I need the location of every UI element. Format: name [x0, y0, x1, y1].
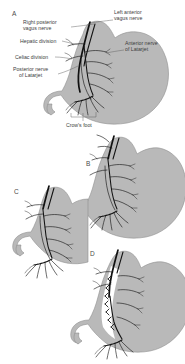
label-left-anterior-vagus-line2: vagus nerve	[114, 15, 142, 21]
hepatic-division-branch-b	[90, 154, 97, 159]
label-crows-foot: Crow's foot	[66, 122, 92, 128]
vagotomy-figure: A	[0, 0, 185, 364]
hepatic-division-branch-d	[94, 268, 101, 273]
celiac-division-branch-a	[65, 53, 72, 58]
panel-a: A	[12, 9, 169, 128]
panel-c: C	[13, 186, 88, 278]
stomach-outline-d	[71, 251, 185, 352]
label-anterior-latarjet-line2: of Latarjet	[125, 46, 149, 52]
leader-celiac-division	[55, 57, 72, 59]
label-posterior-latarjet-line2: of Latarjet	[19, 72, 43, 78]
leader-hepatic-division	[62, 41, 79, 45]
celiac-division-branch-d	[93, 281, 100, 286]
hepatic-division-branch-c	[25, 201, 32, 206]
panel-letter-c: C	[14, 188, 19, 195]
stomach-outline-c	[13, 187, 88, 264]
crows-foot-c	[25, 259, 63, 278]
panel-letter-b: B	[86, 160, 90, 167]
label-right-posterior-vagus-line2: vagus nerve	[23, 25, 51, 31]
label-hepatic-division: Hepatic division	[20, 38, 56, 44]
celiac-division-branch-c	[25, 211, 32, 216]
panel-d: D	[71, 250, 185, 359]
trunk-stump-free-b-1	[97, 135, 109, 142]
panel-letter-d: D	[90, 250, 95, 257]
label-celiac-division: Celiac division	[15, 54, 48, 60]
panel-letter-a: A	[12, 10, 17, 17]
